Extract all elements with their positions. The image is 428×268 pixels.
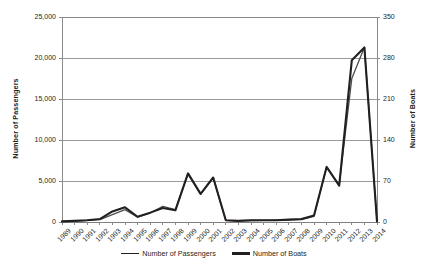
legend-line-icon [232, 252, 250, 254]
y-axis-right-tick-label: 0 [383, 218, 427, 226]
y-axis-left-tick-label: 20,000 [12, 54, 56, 62]
chart-legend: Number of PassengersNumber of Boats [0, 249, 428, 258]
y-axis-right-tick-label: 140 [383, 136, 427, 144]
y-axis-right-tick-label: 210 [383, 95, 427, 103]
legend-label: Number of Passengers [142, 249, 216, 258]
y-axis-left-tick-label: 10,000 [12, 136, 56, 144]
legend-line-icon [121, 253, 139, 255]
y-axis-right-tick-label: 280 [383, 54, 427, 62]
plot-area [0, 0, 428, 268]
series-line [62, 47, 377, 221]
y-axis-left-tick-label: 25,000 [12, 13, 56, 21]
y-axis-right-tick-label: 350 [383, 13, 427, 21]
y-axis-right-title: Number of Boats [408, 59, 417, 179]
y-axis-left-tick-label: 0 [12, 218, 56, 226]
y-axis-left-tick-label: 5,000 [12, 177, 56, 185]
chart-container: Number of Passengers Number of Boats 05,… [0, 0, 428, 268]
y-axis-left-title: Number of Passengers [11, 59, 20, 179]
legend-entry: Number of Boats [232, 249, 307, 258]
legend-label: Number of Boats [253, 249, 307, 258]
y-axis-right-tick-label: 70 [383, 177, 427, 185]
y-axis-left-tick-label: 15,000 [12, 95, 56, 103]
legend-entry: Number of Passengers [121, 249, 216, 258]
